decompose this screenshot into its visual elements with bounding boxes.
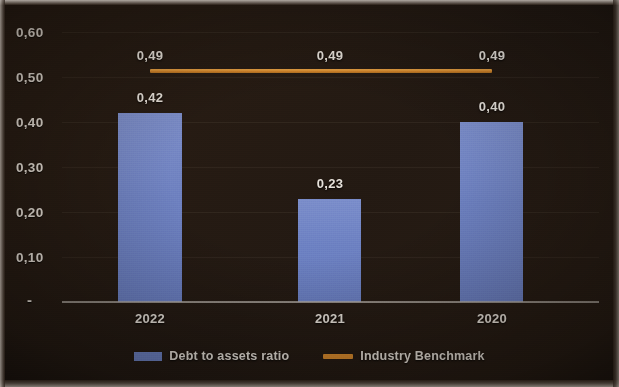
y-axis-tick-050: 0,50 [16, 70, 62, 85]
bar-2020[interactable] [460, 122, 523, 302]
bar-2021[interactable] [298, 199, 361, 302]
legend-line-swatch-icon [323, 354, 353, 359]
legend-item-industry-benchmark[interactable]: Industry Benchmark [323, 349, 484, 363]
page-edge-bottom [0, 380, 619, 387]
gridline-060 [62, 32, 599, 33]
y-axis-tick-010: 0,10 [16, 250, 62, 265]
benchmark-label-2020: 0,49 [452, 48, 532, 63]
legend-bar-swatch-icon [134, 352, 162, 361]
page-edge-top [0, 0, 619, 5]
y-axis-tick-060: 0,60 [16, 25, 62, 40]
plot-area: 0,60 0,50 0,40 0,30 0,20 0,10 - 0,42 0,2… [0, 0, 619, 387]
bar-label-2021: 0,23 [290, 176, 370, 191]
bar-label-2022: 0,42 [110, 90, 190, 105]
gridline-050 [62, 77, 599, 78]
y-axis-tick-zero: - [27, 291, 73, 308]
bar-label-2020: 0,40 [452, 99, 532, 114]
benchmark-label-2022: 0,49 [110, 48, 190, 63]
bar-2022[interactable] [118, 113, 182, 302]
x-axis-tick-2022: 2022 [110, 311, 190, 326]
industry-benchmark-line[interactable] [150, 69, 492, 73]
page-edge-right [613, 0, 619, 387]
x-axis-line [62, 301, 599, 303]
x-axis-tick-2020: 2020 [452, 311, 532, 326]
chart-legend: Debt to assets ratio Industry Benchmark [0, 349, 619, 363]
y-axis-tick-020: 0,20 [16, 205, 62, 220]
x-axis-tick-2021: 2021 [290, 311, 370, 326]
y-axis-tick-030: 0,30 [16, 160, 62, 175]
legend-label-industry-benchmark: Industry Benchmark [360, 349, 484, 363]
legend-item-debt-to-assets-ratio[interactable]: Debt to assets ratio [134, 349, 289, 363]
benchmark-label-2021: 0,49 [290, 48, 370, 63]
y-axis-tick-040: 0,40 [16, 115, 62, 130]
legend-label-debt-to-assets-ratio: Debt to assets ratio [169, 349, 289, 363]
page-edge-left [0, 0, 5, 387]
chart-screenshot: 0,60 0,50 0,40 0,30 0,20 0,10 - 0,42 0,2… [0, 0, 619, 387]
